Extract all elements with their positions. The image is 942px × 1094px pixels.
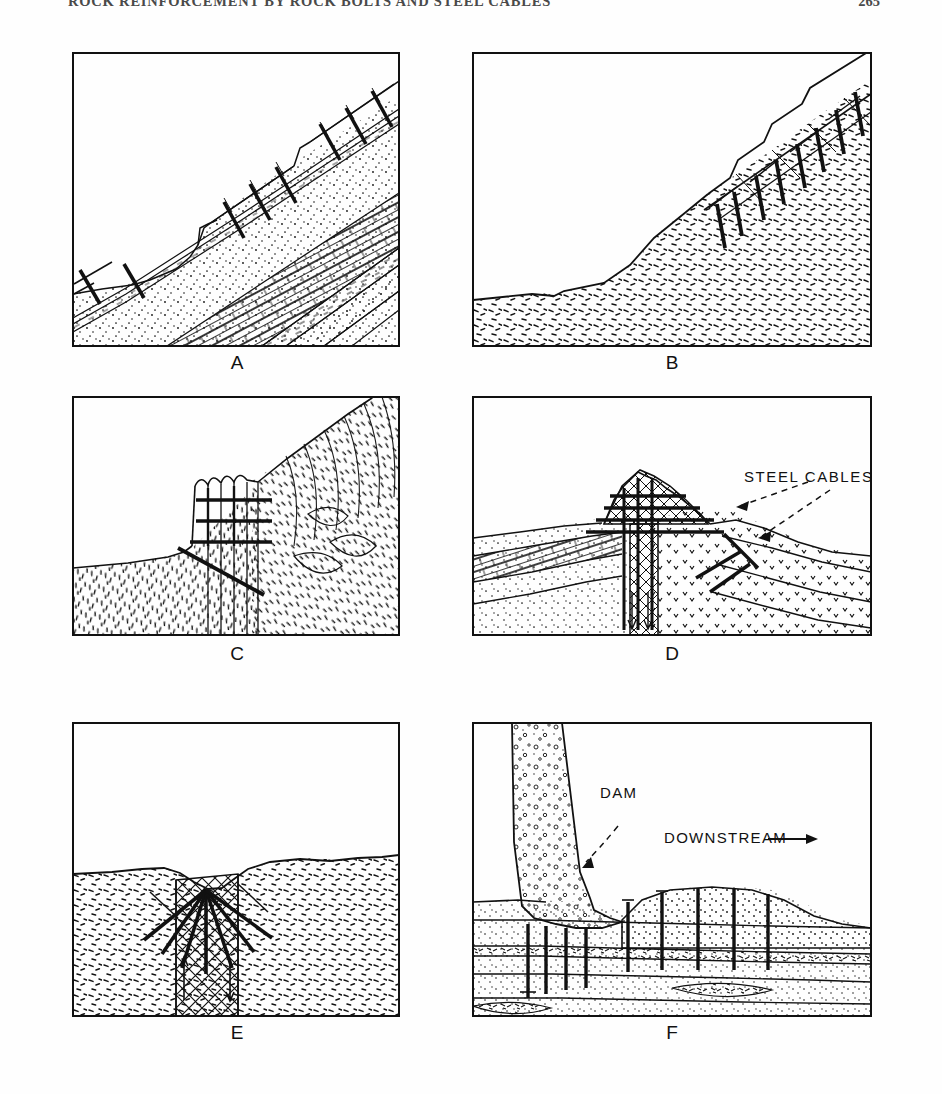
panel-f: DAM DOWNSTREAM bbox=[472, 722, 872, 1017]
panel-b bbox=[472, 52, 872, 347]
panel-a bbox=[72, 52, 400, 347]
running-head: ROCK REINFORCEMENT BY ROCK BOLTS AND STE… bbox=[0, 0, 942, 13]
panel-c-drawing bbox=[72, 396, 400, 636]
panel-e-label: E bbox=[217, 1022, 257, 1044]
page-canvas: ROCK REINFORCEMENT BY ROCK BOLTS AND STE… bbox=[0, 0, 942, 1094]
panel-d-drawing bbox=[472, 396, 872, 636]
panel-f-label: F bbox=[652, 1022, 692, 1044]
panel-c-label: C bbox=[217, 643, 257, 665]
steel-cables-annotation: STEEL CABLES bbox=[744, 468, 874, 485]
panel-e bbox=[72, 722, 400, 1017]
panel-b-label: B bbox=[652, 352, 692, 374]
dam-annotation: DAM bbox=[600, 784, 637, 801]
panel-a-drawing bbox=[72, 52, 400, 347]
panel-b-drawing bbox=[472, 52, 872, 347]
panel-e-drawing bbox=[72, 722, 400, 1017]
downstream-annotation: DOWNSTREAM bbox=[664, 829, 787, 846]
panel-f-drawing bbox=[472, 722, 872, 1017]
panel-d-label: D bbox=[652, 643, 692, 665]
panel-c bbox=[72, 396, 400, 636]
panel-d: STEEL CABLES bbox=[472, 396, 872, 636]
page-number: 265 bbox=[858, 0, 880, 10]
panel-a-label: A bbox=[217, 352, 257, 374]
running-head-title: ROCK REINFORCEMENT BY ROCK BOLTS AND STE… bbox=[68, 0, 551, 10]
